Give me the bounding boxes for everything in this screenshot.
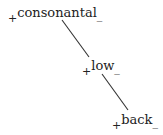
feature-label: back (121, 112, 152, 127)
feature-label: consonantal (17, 5, 97, 20)
plus-sign: + (112, 119, 121, 132)
minus-sign: _ (114, 62, 120, 75)
edge-consonantal-low (62, 20, 89, 57)
plus-sign: + (8, 12, 17, 25)
minus-sign: _ (152, 116, 158, 129)
node-consonantal: +consonantal_ (8, 6, 102, 20)
minus-sign: _ (97, 9, 103, 22)
node-low: +low_ (82, 59, 120, 73)
node-back: +back_ (112, 113, 158, 127)
plus-sign: + (82, 65, 91, 78)
feature-label: low (91, 58, 114, 73)
edge-low-back (102, 74, 128, 110)
